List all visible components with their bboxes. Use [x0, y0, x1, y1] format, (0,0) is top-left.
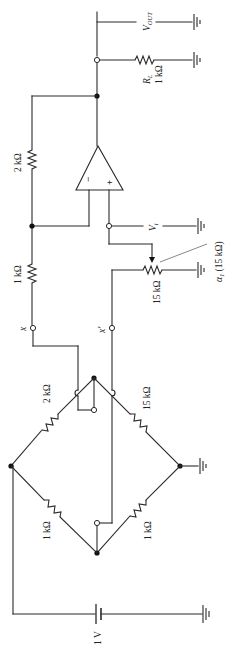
resistor-icon — [143, 266, 162, 274]
load-resistor-rl: RL 1 kΩ — [97, 52, 200, 85]
vi-label: Vi — [148, 223, 159, 231]
bridge-top-left-value: 2 kΩ — [42, 384, 52, 403]
resistor-icon — [135, 56, 154, 64]
potentiometer: 15 kΩ α1 (15 kΩ) — [109, 229, 225, 326]
terminal-x-label: x — [18, 326, 28, 332]
bridge-bottom-left-value: 1 kΩ — [42, 521, 52, 540]
wheatstone-bridge: 2 kΩ 15 kΩ 1 kΩ 1 kΩ — [8, 375, 206, 555]
inverting-node — [29, 223, 34, 228]
terminal-x-prime-label: x′ — [97, 326, 107, 334]
ground-icon — [198, 262, 204, 278]
rin-value: 1 kΩ — [13, 265, 23, 284]
ground-icon — [203, 605, 209, 623]
resistor-icon — [42, 414, 58, 431]
battery-source: 1 V — [13, 466, 209, 645]
rl-value: 1 kΩ — [154, 65, 164, 84]
wiper-arrow-icon — [149, 257, 155, 263]
resistor-icon — [130, 500, 146, 517]
bridge-bottom-terminal[interactable] — [94, 520, 99, 525]
rf-value: 2 kΩ — [13, 153, 23, 172]
minus-input-label: − — [83, 177, 93, 182]
vi-measurement: Vi — [112, 218, 204, 234]
op-amp-icon — [76, 146, 123, 190]
battery-value: 1 V — [93, 631, 103, 645]
pot-value: 15 kΩ — [152, 280, 162, 304]
bridge-bottom-right-value: 1 kΩ — [143, 521, 153, 540]
output-terminal[interactable] — [94, 57, 99, 62]
ground-icon — [194, 14, 200, 30]
ground-icon — [194, 52, 200, 68]
pot-wiper-label: α1 (15 kΩ) — [214, 241, 225, 282]
vout-label: VOUT — [142, 12, 153, 31]
resistor-icon — [28, 264, 36, 283]
resistor-icon — [130, 414, 147, 432]
input-resistor: 1 kΩ — [13, 264, 36, 325]
plus-input-label: + — [105, 180, 115, 185]
vout-measurement: VOUT — [97, 12, 200, 56]
circuit-diagram: VOUT RL 1 kΩ 2 kΩ − + — [0, 0, 227, 647]
op-amp: − + — [76, 146, 123, 190]
terminal-x-prime[interactable] — [109, 325, 114, 330]
rl-label: RL — [142, 74, 153, 85]
resistor-icon — [44, 500, 61, 517]
vi-terminal[interactable] — [106, 223, 111, 228]
ground-icon — [200, 458, 206, 474]
terminal-x[interactable] — [30, 325, 35, 330]
bridge-top-right-value: 15 kΩ — [142, 386, 152, 410]
ground-icon — [198, 218, 204, 234]
bridge-top-terminal[interactable] — [91, 407, 96, 412]
resistor-icon — [28, 150, 36, 169]
